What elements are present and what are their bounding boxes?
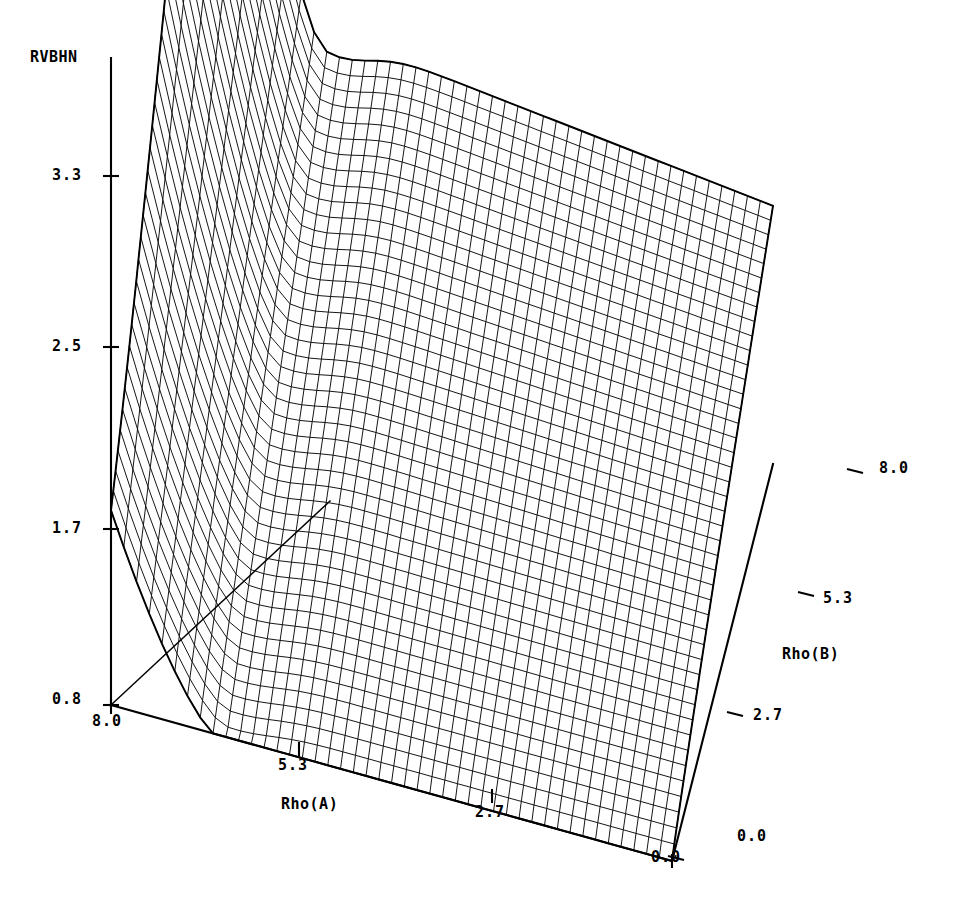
x-axis-label: Rho(A): [281, 795, 338, 813]
x-tick-label-1: 5.3: [278, 756, 308, 774]
y-tick-5-3: [798, 592, 814, 596]
z-axis-label: RVBHN: [30, 48, 78, 66]
x-tick-label-2: 2.7: [475, 803, 505, 821]
y-tick-label-2: 5.3: [823, 589, 853, 607]
y-axis-label: Rho(B): [782, 645, 839, 663]
z-tick-label-3: 0.8: [52, 690, 82, 708]
surface-plot-canvas: [0, 0, 960, 902]
y-tick-label-0: 0.0: [737, 827, 767, 845]
y-tick-2-7: [727, 712, 743, 716]
z-tick-label-1: 2.5: [52, 337, 82, 355]
x-tick-label-3: 0.0: [651, 848, 681, 866]
y-tick-label-1: 2.7: [753, 706, 783, 724]
figure-page: RVBHN Rho(A) Rho(B) 3.32.51.70.88.05.32.…: [0, 0, 960, 902]
z-tick-label-2: 1.7: [52, 519, 82, 537]
y-tick-8-0: [847, 469, 863, 473]
z-tick-label-0: 3.3: [52, 166, 82, 184]
y-tick-label-3: 8.0: [879, 459, 909, 477]
x-tick-label-0: 8.0: [92, 712, 122, 730]
